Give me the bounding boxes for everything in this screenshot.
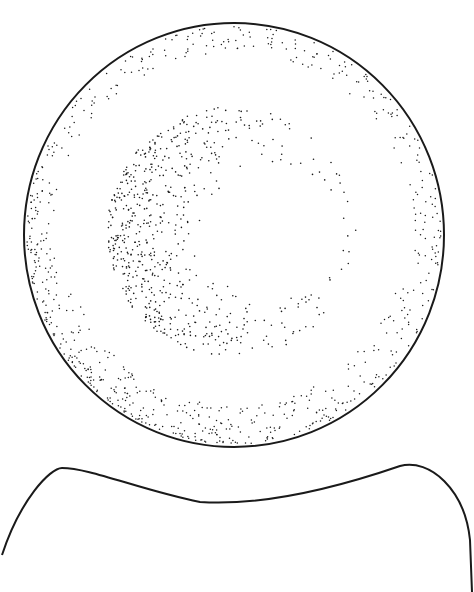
illustration-canvas [0,0,474,592]
background [0,0,474,592]
